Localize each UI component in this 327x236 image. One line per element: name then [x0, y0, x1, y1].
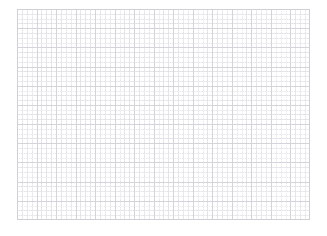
grid-bottom-edge [17, 219, 310, 220]
grid-right-edge [309, 9, 310, 220]
grid-major-lines [17, 9, 310, 220]
grid-sheet[interactable] [17, 9, 310, 220]
grid-canvas-root [0, 0, 327, 236]
